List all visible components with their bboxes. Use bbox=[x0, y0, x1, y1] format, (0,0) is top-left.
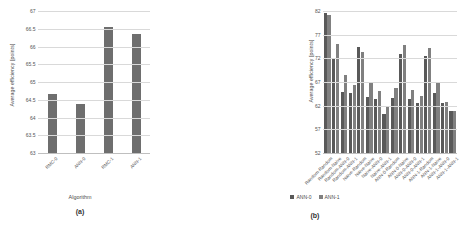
y-axis-tick-label: 82 bbox=[315, 8, 321, 14]
bar bbox=[420, 96, 423, 154]
x-axis-tick-label: ANN-0 bbox=[73, 156, 86, 169]
y-axis-tick-label: 67 bbox=[315, 79, 321, 85]
legend-swatch-icon bbox=[290, 195, 294, 199]
bar-group bbox=[407, 12, 415, 154]
x-axis-title-a: Algorithm bbox=[0, 194, 160, 200]
chart-panel-b: Average efficiency [points] Random-Rando… bbox=[160, 0, 470, 234]
y-axis-tick-label: 67 bbox=[30, 8, 36, 14]
panel-caption-b: (b) bbox=[160, 212, 470, 219]
legend-item[interactable]: ANN-0 bbox=[290, 194, 311, 200]
bar-group bbox=[449, 12, 457, 154]
bar-group bbox=[357, 12, 365, 154]
bar bbox=[378, 91, 381, 154]
y-axis-tick-label: 64 bbox=[30, 115, 36, 121]
bar-group bbox=[331, 12, 339, 154]
bar bbox=[48, 94, 57, 154]
bar bbox=[369, 82, 372, 154]
bar bbox=[436, 83, 439, 154]
bar-group bbox=[365, 12, 373, 154]
bar bbox=[428, 48, 431, 155]
bar bbox=[353, 85, 356, 154]
gridline: 57 bbox=[323, 129, 457, 130]
y-axis-tick-label: 63 bbox=[30, 150, 36, 156]
bar-group bbox=[38, 12, 66, 154]
bar bbox=[394, 88, 397, 154]
y-axis-tick-label: 66.5 bbox=[26, 26, 36, 32]
bar-group bbox=[382, 12, 390, 154]
y-axis-tick-label: 62 bbox=[315, 103, 321, 109]
legend-item[interactable]: ANN-1 bbox=[319, 194, 340, 200]
gridline: 66 bbox=[38, 47, 150, 48]
figure-container: Average efficiency [points] RMC-0ANN-0RM… bbox=[0, 0, 470, 234]
gridline: 82 bbox=[323, 11, 457, 12]
y-axis-tick-label: 52 bbox=[315, 150, 321, 156]
bar bbox=[344, 75, 347, 154]
bar bbox=[327, 15, 330, 154]
bar-group bbox=[415, 12, 423, 154]
gridline: 63 bbox=[38, 153, 150, 154]
bar-group bbox=[373, 12, 381, 154]
y-axis-tick-label: 64.5 bbox=[26, 97, 36, 103]
bar-group bbox=[340, 12, 348, 154]
chart-legend-b: ANN-0ANN-1 bbox=[160, 194, 470, 200]
gridline: 65.5 bbox=[38, 64, 150, 65]
x-axis-tick-label: RMC-0 bbox=[45, 156, 59, 170]
bar-group bbox=[122, 12, 150, 154]
bar-group bbox=[66, 12, 94, 154]
bar bbox=[76, 104, 85, 154]
bar bbox=[361, 52, 364, 154]
bar bbox=[403, 45, 406, 154]
gridline: 65 bbox=[38, 82, 150, 83]
gridline: 63.5 bbox=[38, 135, 150, 136]
bar-series-b bbox=[323, 12, 457, 154]
bar-group bbox=[348, 12, 356, 154]
plot-area-a: RMC-0ANN-0RMC-1ANN-1 6363.56464.56565.56… bbox=[38, 12, 150, 154]
bar bbox=[336, 44, 339, 154]
bar-series-a bbox=[38, 12, 150, 154]
gridline: 64 bbox=[38, 118, 150, 119]
panel-caption-a: (a) bbox=[0, 208, 160, 215]
chart-panel-a: Average efficiency [points] RMC-0ANN-0RM… bbox=[0, 0, 160, 234]
gridline: 64.5 bbox=[38, 100, 150, 101]
gridline: 77 bbox=[323, 35, 457, 36]
x-axis-tick-label: RMC-1 bbox=[101, 156, 115, 170]
y-axis-tick-label: 63.5 bbox=[26, 132, 36, 138]
y-axis-title-a: Average efficiency [points] bbox=[9, 37, 15, 113]
gridline: 66.5 bbox=[38, 29, 150, 30]
bar bbox=[453, 111, 456, 154]
gridline: 62 bbox=[323, 106, 457, 107]
bar-group bbox=[424, 12, 432, 154]
y-axis-tick-label: 65.5 bbox=[26, 61, 36, 67]
x-axis-tick-label: ANN-1 bbox=[129, 156, 142, 169]
plot-area-b: Random-RandomRandom-NaiveRandom-ANN-0Ran… bbox=[323, 12, 457, 154]
y-axis-tick-label: 57 bbox=[315, 126, 321, 132]
y-axis-tick-label: 77 bbox=[315, 32, 321, 38]
legend-swatch-icon bbox=[319, 195, 323, 199]
gridline: 67 bbox=[323, 82, 457, 83]
gridline: 67 bbox=[38, 11, 150, 12]
bar bbox=[411, 90, 414, 154]
bar-group bbox=[398, 12, 406, 154]
bar-group bbox=[94, 12, 122, 154]
bar-group bbox=[323, 12, 331, 154]
gridline: 72 bbox=[323, 58, 457, 59]
bar-group bbox=[390, 12, 398, 154]
bar-group bbox=[432, 12, 440, 154]
gridline: 52 bbox=[323, 153, 457, 154]
bar bbox=[445, 102, 448, 154]
legend-label: ANN-0 bbox=[296, 194, 311, 200]
y-axis-tick-label: 66 bbox=[30, 44, 36, 50]
y-axis-title-b: Average efficiency [points] bbox=[308, 33, 314, 109]
y-axis-tick-label: 72 bbox=[315, 55, 321, 61]
y-axis-tick-label: 65 bbox=[30, 79, 36, 85]
legend-label: ANN-1 bbox=[325, 194, 340, 200]
bar-group bbox=[440, 12, 448, 154]
